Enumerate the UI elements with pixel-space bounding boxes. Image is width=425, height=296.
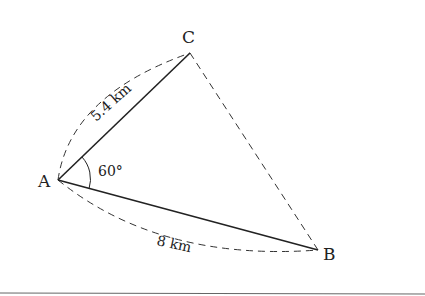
angle-arc-a <box>82 157 91 189</box>
angle-label-a: 60° <box>98 163 123 179</box>
side-ac <box>58 53 190 180</box>
side-label-ac: 5.4 km <box>87 80 134 124</box>
point-label-c: C <box>182 27 195 47</box>
side-label-ab: 8 km <box>155 232 193 255</box>
point-label-a: A <box>37 171 51 191</box>
point-label-b: B <box>323 244 336 264</box>
triangle-diagram: A C B 60° 5.4 km 8 km <box>0 0 425 296</box>
bottom-rule <box>0 293 425 294</box>
